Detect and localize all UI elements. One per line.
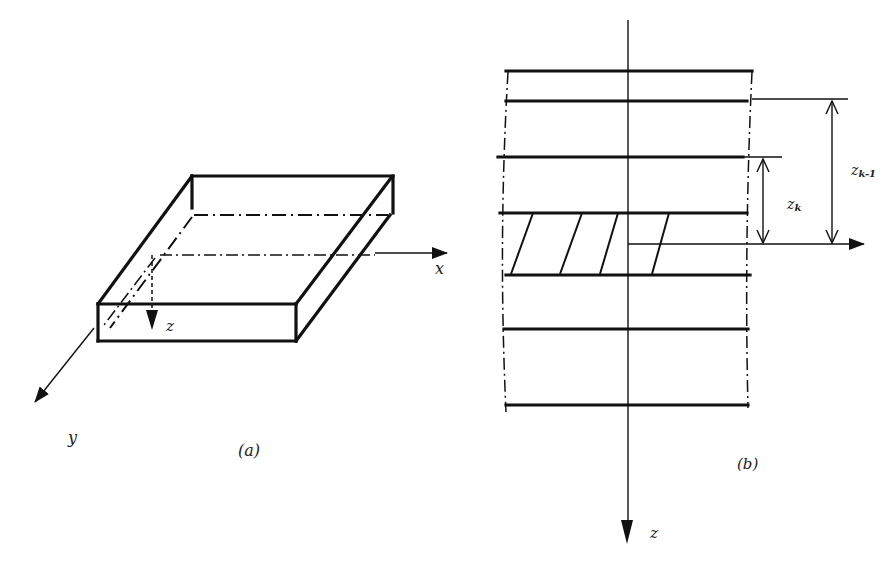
- y-axis-arrow: [35, 328, 94, 402]
- zk-label: zk: [786, 196, 801, 213]
- right-boundary: [747, 72, 752, 408]
- laminate-figure: x z y (a) z: [0, 0, 892, 565]
- z-axis-label-b: z: [649, 524, 658, 542]
- layer-lines: [498, 71, 752, 405]
- panel-b-laminate-section: z zk: [498, 20, 876, 544]
- z-axis-label-a: z: [165, 317, 174, 335]
- plate-right-face: [192, 176, 393, 341]
- dimension-zk: zk: [757, 159, 801, 243]
- panel-a-caption: (a): [238, 441, 260, 460]
- zk-minus-1-label: zk-1: [850, 162, 876, 179]
- panel-a-plate-diagram: x z y (a): [35, 176, 447, 460]
- dimension-zk-minus-1: zk-1: [826, 101, 876, 243]
- z-axis-arrowhead-b-icon: [621, 520, 633, 544]
- panel-b-caption: (b): [737, 455, 758, 473]
- z-axis-arrowhead-icon: [146, 310, 158, 330]
- plate-front-face: [98, 304, 296, 341]
- y-axis-label: y: [67, 428, 78, 447]
- x-axis-label: x: [435, 259, 444, 278]
- left-boundary: [502, 72, 508, 412]
